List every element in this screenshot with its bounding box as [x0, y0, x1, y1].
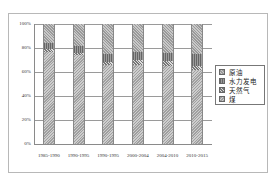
- gridline: [34, 24, 212, 25]
- x-tick-label: 1990-1995: [64, 153, 94, 158]
- bar-segment: [162, 53, 174, 61]
- legend-item-coal: 煤: [219, 94, 236, 103]
- x-tick-label: 2000-2004: [123, 153, 153, 158]
- gridline: [34, 96, 212, 97]
- bar-segment: [43, 49, 55, 51]
- bar-2000-2004: [132, 24, 144, 144]
- bar-segment: [132, 24, 144, 52]
- coal-swatch-icon: [219, 96, 225, 102]
- bar-segment: [132, 65, 144, 144]
- bar-segment: [162, 66, 174, 144]
- bar-segment: [73, 53, 85, 55]
- bar-segment: [43, 52, 55, 144]
- bar-segment: [132, 60, 144, 65]
- legend: 原油 水力发电 天然气 煤: [215, 65, 265, 105]
- bar-2004-2010: [162, 24, 174, 144]
- gas-swatch-icon: [219, 87, 225, 93]
- bar-segment: [102, 24, 114, 54]
- y-tick-label: 40%: [6, 93, 31, 98]
- bar-1990-1995: [102, 24, 114, 144]
- bar-segment: [191, 66, 203, 70]
- hydro-swatch-icon: [219, 78, 225, 84]
- y-tick-label: 60%: [6, 69, 31, 74]
- bar-segment: [73, 55, 85, 144]
- bar-segment: [191, 24, 203, 54]
- bar-segment: [162, 24, 174, 53]
- x-tick-label: 2010-2015: [182, 153, 212, 158]
- bar-segment: [162, 61, 174, 66]
- y-tick-label: 100%: [6, 21, 31, 26]
- bar-2010-2015: [191, 24, 203, 144]
- bar-segment: [73, 46, 85, 53]
- bar-segment: [43, 43, 55, 49]
- bar-segment: [102, 54, 114, 62]
- gridline: [34, 72, 212, 73]
- bar-segment: [132, 52, 144, 60]
- y-axis: [34, 24, 35, 144]
- bar-segment: [191, 54, 203, 66]
- bar-1990-1995: [73, 24, 85, 144]
- y-tick-label: 0%: [6, 141, 31, 146]
- y-tick-label: 20%: [6, 117, 31, 122]
- bar-segment: [73, 24, 85, 46]
- x-tick-label: 1985-1990: [34, 153, 64, 158]
- gridline: [34, 48, 212, 49]
- y-tick-label: 80%: [6, 45, 31, 50]
- oil-swatch-icon: [219, 69, 225, 75]
- bar-segment: [191, 70, 203, 144]
- legend-label: 煤: [229, 94, 236, 104]
- x-axis: [34, 144, 212, 145]
- bar-1985-1990: [43, 24, 55, 144]
- bar-segment: [102, 65, 114, 144]
- x-tick-label: 2004-2010: [153, 153, 183, 158]
- bar-segment: [102, 62, 114, 64]
- gridline: [34, 120, 212, 121]
- x-tick-label: 1990-1995: [93, 153, 123, 158]
- plot-area: [34, 24, 212, 144]
- bar-segment: [43, 24, 55, 43]
